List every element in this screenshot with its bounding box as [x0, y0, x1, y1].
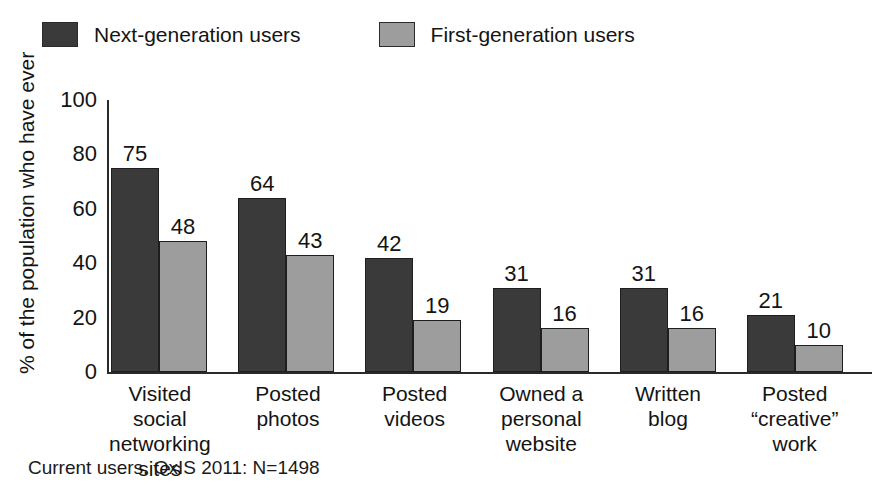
bar-value-label: 43	[298, 230, 322, 252]
chart-footnote: Current users. OxIS 2011: N=1498	[28, 458, 320, 477]
y-tick-0: 0	[85, 361, 97, 383]
bar-first-generation: 16	[541, 328, 589, 372]
bar-value-label: 19	[425, 295, 449, 317]
x-axis-label-line: videos	[365, 406, 464, 431]
bar-value-label: 31	[631, 263, 655, 285]
x-axis-label-line: Posted	[745, 381, 844, 406]
bar-first-generation: 48	[159, 241, 207, 372]
bar-next-generation: 42	[365, 258, 413, 372]
bar-next-generation: 31	[493, 288, 541, 372]
bar-next-generation: 21	[747, 315, 795, 372]
legend-swatch-first-generation-users	[379, 22, 415, 47]
bar-group: 75 48	[109, 100, 236, 372]
bar-next-generation: 75	[111, 168, 159, 372]
x-axis-label-line: Posted	[239, 381, 338, 406]
bar-value-label: 21	[759, 290, 783, 312]
bar-groups: 75 48 64 43 42 19	[109, 100, 872, 372]
bar-value-label: 10	[807, 320, 831, 342]
x-axis-label: Posted “creative” work	[745, 381, 872, 481]
y-axis-title: % of the population who have ever	[14, 100, 40, 374]
legend-label-first-generation-users: First-generation users	[431, 24, 635, 45]
bar-value-label: 16	[679, 303, 703, 325]
bar-next-generation: 31	[620, 288, 668, 372]
y-tick-100: 100	[60, 89, 97, 111]
chart-legend: Next-generation users First-generation u…	[42, 22, 635, 47]
x-axis-label-line: website	[492, 431, 591, 456]
bar-group: 31 16	[491, 100, 618, 372]
bar-group: 42 19	[363, 100, 490, 372]
legend-entry-next-generation-users: Next-generation users	[42, 22, 301, 47]
x-axis-label: Written blog	[619, 381, 746, 481]
legend-entry-first-generation-users: First-generation users	[379, 22, 635, 47]
bar-value-label: 42	[377, 233, 401, 255]
bar-value-label: 48	[171, 216, 195, 238]
bar-chart-figure: Next-generation users First-generation u…	[0, 0, 886, 500]
legend-label-next-generation-users: Next-generation users	[94, 24, 301, 45]
y-tick-20: 20	[73, 307, 97, 329]
bar-group: 64 43	[236, 100, 363, 372]
bar-first-generation: 10	[795, 345, 843, 372]
x-axis-label-line: Owned a	[492, 381, 591, 406]
x-axis-label-line: blog	[619, 406, 718, 431]
bar-group: 31 16	[618, 100, 745, 372]
x-axis-label: Posted videos	[365, 381, 492, 481]
bar-next-generation: 64	[238, 198, 286, 372]
bar-first-generation: 19	[413, 320, 461, 372]
x-axis-label-line: “creative”	[745, 406, 844, 431]
y-tick-40: 40	[73, 252, 97, 274]
plot-area: 100 80 60 40 20 0 75 48 64 43	[107, 100, 872, 374]
x-axis-label-line: Posted	[365, 381, 464, 406]
x-axis-label-line: Written	[619, 381, 718, 406]
bar-first-generation: 43	[286, 255, 334, 372]
x-axis-label-line: personal	[492, 406, 591, 431]
y-tick-60: 60	[73, 198, 97, 220]
x-axis-line	[107, 372, 872, 374]
x-axis-label-line: Visited social	[109, 381, 211, 431]
x-axis-label-line: photos	[239, 406, 338, 431]
x-axis-label-line: networking	[109, 431, 211, 456]
bar-value-label: 75	[123, 143, 147, 165]
bar-first-generation: 16	[668, 328, 716, 372]
bar-value-label: 16	[552, 303, 576, 325]
bar-value-label: 64	[250, 173, 274, 195]
bar-group: 21 10	[745, 100, 872, 372]
x-axis-label: Owned a personal website	[492, 381, 619, 481]
y-tick-80: 80	[73, 143, 97, 165]
legend-swatch-next-generation-users	[42, 22, 78, 47]
x-axis-label-line: work	[745, 431, 844, 456]
bar-value-label: 31	[504, 263, 528, 285]
